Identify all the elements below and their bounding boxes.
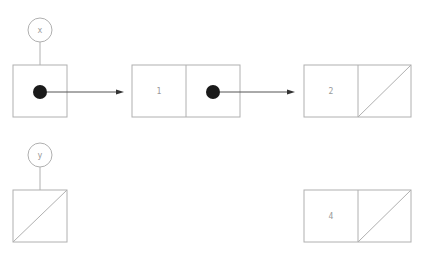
variable-x-label: x [38,26,43,35]
pointer-dot-icon [206,85,220,99]
linked-list-diagram: x 1 2 y 4 [0,0,430,257]
variable-y: y [13,143,67,242]
node-4: 4 [304,190,411,242]
variable-x: x [13,18,67,117]
arrowhead-icon [287,90,295,95]
node-4-value: 4 [329,212,334,221]
pointer-dot-icon [33,85,47,99]
node-2-value: 2 [329,87,334,96]
arrowhead-icon [116,90,124,95]
variable-y-label: y [38,151,43,160]
node-1-value: 1 [157,87,162,96]
node-2: 2 [304,65,411,117]
node-1: 1 [132,65,240,117]
